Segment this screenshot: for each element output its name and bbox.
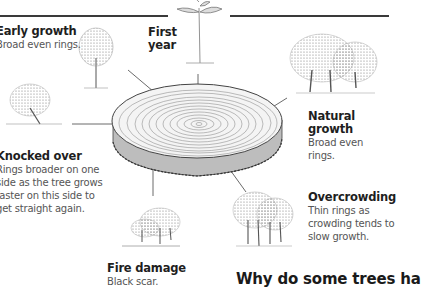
- knocked-over-desc-line: Rings broader on one: [0, 163, 102, 176]
- knocked-over-desc-line: get straight again.: [0, 202, 102, 215]
- label-fire-damage: Fire damage Black scar.: [107, 262, 186, 288]
- early-growth-desc: Broad even rings.: [0, 38, 81, 51]
- tree-ring-cross-section: [112, 84, 282, 176]
- label-overcrowding: Overcrowding Thin rings as crowding tend…: [308, 191, 396, 243]
- single-young-tree: [79, 28, 113, 88]
- burnt-trees: [122, 208, 180, 246]
- label-knocked-over: Knocked over Rings broader on one side a…: [0, 150, 102, 215]
- knocked-over-desc-line: faster on this side to: [0, 189, 102, 202]
- overcrowding-desc-line: slow growth.: [308, 230, 396, 243]
- knocked-over-title: Knocked over: [0, 150, 102, 163]
- early-growth-title: Early growth: [0, 25, 81, 38]
- overcrowding-desc-line: Thin rings as: [308, 204, 396, 217]
- knocked-over-desc-line: side as the tree grows: [0, 176, 102, 189]
- natural-growth-desc: Broad even rings.: [308, 136, 389, 162]
- overcrowding-title: Overcrowding: [308, 191, 396, 204]
- seedling: [177, 0, 222, 63]
- label-natural-growth: Natural growth Broad even rings.: [308, 110, 389, 162]
- leaning-tree: [6, 84, 62, 124]
- dense-tree-cluster: [233, 192, 293, 246]
- label-early-growth: Early growth Broad even rings.: [0, 25, 81, 51]
- first-year-title-line2: year: [148, 39, 177, 52]
- fire-damage-desc: Black scar.: [107, 275, 186, 288]
- label-first-year: First year: [148, 26, 177, 52]
- overcrowding-desc-line: crowding tends to: [308, 217, 396, 230]
- group-of-mature-trees: [290, 34, 377, 93]
- section-heading: Why do some trees ha: [236, 270, 421, 288]
- fire-damage-title: Fire damage: [107, 262, 186, 275]
- natural-growth-title: Natural growth: [308, 110, 389, 136]
